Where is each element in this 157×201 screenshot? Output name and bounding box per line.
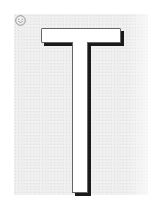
t-stem <box>72 43 88 193</box>
t-joint <box>73 42 87 45</box>
canvas <box>0 0 157 201</box>
letter-t-glyph <box>0 0 157 201</box>
t-crossbar <box>41 28 121 43</box>
